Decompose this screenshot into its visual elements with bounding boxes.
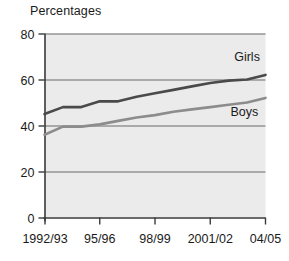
x-tick-label: 1992/93 <box>22 232 67 246</box>
series-label-girls: Girls <box>234 50 260 64</box>
series-label-boys: Boys <box>231 105 259 119</box>
y-tick-label: 40 <box>21 120 35 134</box>
y-tick-label: 0 <box>28 212 35 226</box>
x-tick-label: 2001/02 <box>188 232 233 246</box>
chart-svg: 020406080 1992/9395/9698/992001/0204/05 … <box>0 0 289 261</box>
x-tick-label: 04/05 <box>250 232 281 246</box>
y-axis-ticks: 020406080 <box>21 28 45 226</box>
line-chart: Percentages 020406080 1992/9395/9698/992… <box>0 0 289 261</box>
y-tick-label: 20 <box>21 166 35 180</box>
x-tick-label: 98/99 <box>139 232 170 246</box>
y-tick-label: 60 <box>21 74 35 88</box>
x-tick-label: 95/96 <box>84 232 115 246</box>
x-axis-ticks: 1992/9395/9698/992001/0204/05 <box>22 218 281 246</box>
y-tick-label: 80 <box>21 28 35 42</box>
